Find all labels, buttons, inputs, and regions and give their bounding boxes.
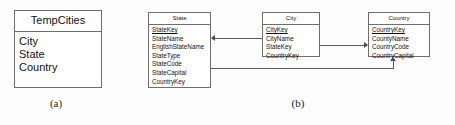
field-country-countrycode: CountryCode: [369, 43, 429, 52]
field-city-cityname: CityName: [263, 35, 319, 44]
entity-country[interactable]: Country CountryKey CountyName CountryCod…: [368, 12, 430, 57]
connector-city-to-state: [215, 38, 262, 39]
field-state-statetype: StateType: [149, 52, 210, 61]
field-state: State: [15, 48, 101, 61]
entity-state[interactable]: State StateKey StateName EnglishStateNam…: [148, 12, 211, 88]
caption-a: (a): [34, 97, 78, 109]
entity-tempcities[interactable]: TempCities City State Country: [14, 10, 102, 88]
caption-b: (b): [276, 97, 320, 109]
entity-tempcities-title: TempCities: [15, 11, 101, 32]
arrowhead-city-to-state-icon: [211, 35, 215, 41]
field-city-citykey: CityKey: [263, 26, 319, 35]
field-state-statename: StateName: [149, 35, 210, 44]
entity-city-title: City: [263, 13, 319, 25]
field-country-countrykey: CountryKey: [369, 26, 429, 35]
field-city-statekey: StateKey: [263, 43, 319, 52]
connector-city-to-country: [320, 45, 364, 46]
connector-state-to-country-vertical: [393, 61, 394, 69]
arrowhead-city-to-country-icon: [364, 42, 368, 48]
entity-state-fields: StateKey StateName EnglishStateName Stat…: [149, 25, 210, 87]
field-country: Country: [15, 61, 101, 74]
field-state-countrykey: CountryKey: [149, 78, 210, 87]
entity-country-title: Country: [369, 13, 429, 25]
figure-canvas: TempCities City State Country (a) State …: [0, 0, 455, 125]
entity-country-fields: CountryKey CountyName CountryCode Countr…: [369, 25, 429, 61]
arrowhead-state-to-country-icon: [390, 57, 396, 61]
field-state-statecapital: StateCapital: [149, 69, 210, 78]
entity-city-fields: CityKey CityName StateKey CountryKey: [263, 25, 319, 61]
field-state-englishstatename: EnglishStateName: [149, 43, 210, 52]
field-country-countyname: CountyName: [369, 35, 429, 44]
connector-state-to-country-horizontal: [211, 68, 394, 69]
field-city: City: [15, 35, 101, 48]
entity-state-title: State: [149, 13, 210, 25]
field-state-statekey: StateKey: [149, 26, 210, 35]
field-country-countrycapital: CountryCapital: [369, 52, 429, 61]
field-state-statecode: StateCode: [149, 60, 210, 69]
field-city-countrykey: CountryKey: [263, 52, 319, 61]
entity-city[interactable]: City CityKey CityName StateKey CountryKe…: [262, 12, 320, 57]
entity-tempcities-fields: City State Country: [15, 32, 101, 75]
